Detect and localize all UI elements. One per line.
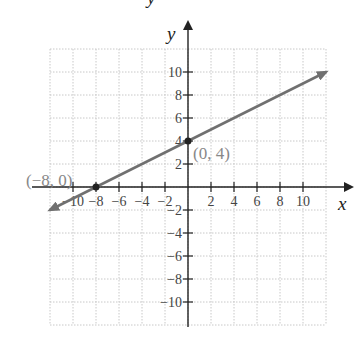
x-tick-label: 8 — [277, 194, 284, 209]
y-tick-label: −2 — [167, 203, 182, 218]
x-tick-label: −8 — [89, 194, 104, 209]
x-axis-label: x — [337, 193, 347, 214]
y-tick-label: 6 — [175, 111, 182, 126]
y-tick-label: 8 — [175, 88, 182, 103]
coordinate-plane: y −10−8−6−4−2246810108642−2−4−6−8−10 x y… — [0, 0, 362, 347]
point-label-y-intercept: (0, 4) — [193, 144, 230, 163]
x-tick-label: 6 — [254, 194, 261, 209]
point-label-x-intercept: (−8, 0) — [26, 171, 72, 190]
y-axis-label: y — [165, 23, 176, 44]
x-tick-label: 2 — [208, 194, 215, 209]
y-tick-label: −10 — [160, 295, 182, 310]
x-tick-label: 4 — [231, 194, 238, 209]
y-tick-label: 10 — [168, 65, 182, 80]
x-tick-label: 10 — [296, 194, 310, 209]
x-tick-label: −6 — [112, 194, 127, 209]
y-tick-label: −4 — [167, 226, 182, 241]
y-tick-label: −6 — [167, 249, 182, 264]
axes — [32, 22, 352, 327]
cropped-top-label: y — [145, 0, 156, 8]
x-tick-label: −4 — [135, 194, 150, 209]
data-point — [185, 138, 192, 145]
data-point — [93, 184, 100, 191]
y-tick-label: 2 — [175, 157, 182, 172]
y-tick-label: −8 — [167, 272, 182, 287]
